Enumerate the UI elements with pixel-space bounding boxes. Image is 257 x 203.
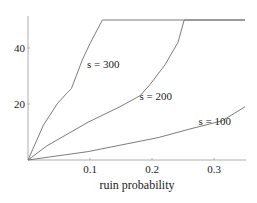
x-tick-label: 0.2	[145, 163, 159, 175]
curve-label-s-200: s = 200	[140, 90, 173, 102]
curve-s-200	[28, 20, 245, 160]
axes: 0.10.20.3 2040	[14, 16, 246, 175]
ruin-probability-chart: 0.10.20.3 2040 s = 300s = 200s = 100 rui…	[0, 0, 257, 203]
x-tick-label: 0.1	[83, 163, 97, 175]
curves	[28, 20, 245, 160]
curve-label-s-100: s = 100	[199, 115, 232, 127]
x-tick-label: 0.3	[207, 163, 221, 175]
x-axis-label: ruin probability	[100, 178, 175, 192]
y-tick-label: 20	[14, 98, 26, 110]
y-tick-label: 40	[14, 42, 26, 54]
curve-label-s-300: s = 300	[87, 58, 120, 70]
curve-labels: s = 300s = 200s = 100	[87, 58, 232, 127]
curve-s-300	[28, 20, 245, 160]
x-ticks: 0.10.20.3	[83, 158, 221, 175]
